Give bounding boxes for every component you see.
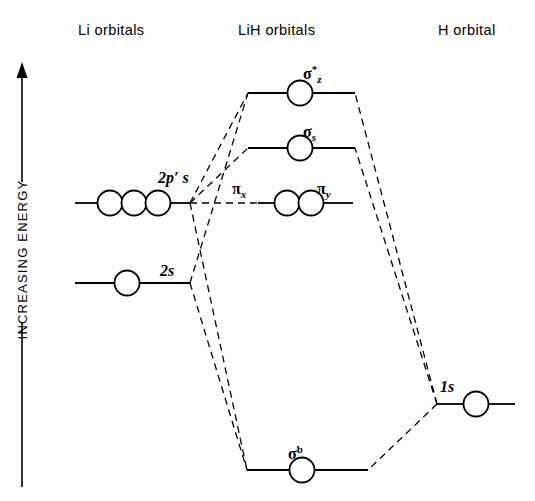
diagram-canvas: [0, 0, 535, 501]
electron-circle-sigma-z-star: [288, 81, 313, 106]
sigma-z-star-subscript: z: [317, 73, 321, 85]
correlation-2p-to-sigma-b: [190, 203, 247, 470]
label-pi-x: πx: [232, 181, 246, 197]
sigma-s-subscript: s: [312, 131, 316, 143]
li-2p-prime: ′: [174, 169, 179, 186]
pi-glyph: π: [317, 180, 326, 197]
electron-circle-pi-x: [275, 191, 300, 216]
pi-x-subscript: x: [241, 188, 247, 200]
label-sigma-b: σb: [288, 446, 303, 462]
electron-circle-li-2p-2: [122, 191, 147, 216]
electron-circles-group: [98, 81, 489, 483]
pi-y-subscript: y: [326, 188, 331, 200]
pi-glyph: π: [232, 180, 241, 197]
correlation-1s-to-sigma-b: [368, 404, 437, 470]
correlation-2s-to-sigma-b: [190, 283, 247, 470]
electron-circle-h-1s: [464, 392, 489, 417]
mo-diagram-figure: Li orbitals LiH orbitals H orbital: [0, 0, 535, 501]
h-1s-text: 1: [440, 378, 448, 395]
electron-circle-li-2p-1: [98, 191, 123, 216]
li-2s-suffix: s: [168, 262, 174, 279]
sigma-glyph: σ: [303, 65, 312, 82]
correlation-1s-to-sigma-s: [355, 148, 437, 404]
label-li-2s: 2s: [160, 263, 174, 279]
electron-circle-li-2s: [115, 271, 140, 296]
label-sigma-z-star: σ*z: [303, 66, 321, 82]
sigma-glyph: σ: [303, 123, 312, 140]
label-li-2p: 2p′ s: [158, 170, 189, 186]
electron-circle-li-2p-3: [146, 191, 171, 216]
label-sigma-s: σs: [303, 124, 316, 140]
li-2p-text: 2p: [158, 169, 174, 186]
sigma-glyph: σ: [288, 445, 297, 462]
h-1s-suffix: s: [448, 378, 454, 395]
correlation-lines-group: [190, 93, 437, 470]
correlation-1s-to-sigma-z-star: [355, 93, 437, 404]
li-2s-text: 2: [160, 262, 168, 279]
energy-axis-arrowhead: [17, 62, 28, 78]
energy-axis-label: INCREASING ENERGY: [15, 165, 30, 355]
sigma-b-superscript: b: [297, 443, 303, 455]
label-pi-y: πy: [317, 181, 331, 197]
li-2p-suffix: s: [183, 169, 189, 186]
label-h-1s: 1s: [440, 379, 454, 395]
